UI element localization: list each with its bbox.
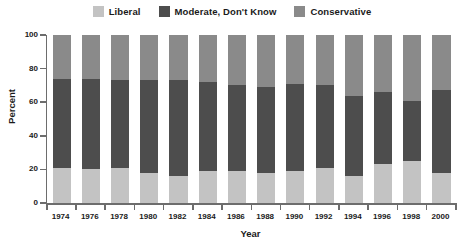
plot-area <box>46 35 456 203</box>
bar-slot-1982 <box>164 35 193 203</box>
bar-slot-1996 <box>368 35 397 203</box>
x-tick-label-1978: 1978 <box>104 212 133 221</box>
bar-segment-moderate-1984 <box>199 82 217 171</box>
bar-segment-liberal-1980 <box>140 173 158 203</box>
bar-segment-moderate-1986 <box>228 85 246 171</box>
x-tick-8 <box>280 204 282 210</box>
legend-label: Conservative <box>310 6 371 17</box>
stacked-bar-1994[interactable] <box>345 35 363 203</box>
bar-segment-moderate-1974 <box>53 79 71 168</box>
x-tick-1 <box>75 204 77 210</box>
x-tick-5 <box>192 204 194 210</box>
bar-slot-2000 <box>427 35 456 203</box>
y-tick-label-wrap: 80 <box>0 65 38 73</box>
x-tick-label-1984: 1984 <box>192 212 221 221</box>
stacked-bar-1982[interactable] <box>169 35 187 203</box>
x-tick-label-1974: 1974 <box>46 212 75 221</box>
x-tick-label-1992: 1992 <box>309 212 338 221</box>
x-axis-labels: 1974197619781980198219841986198819901992… <box>46 212 455 221</box>
x-tick-label-1976: 1976 <box>75 212 104 221</box>
y-tick-label-wrap: 20 <box>0 165 38 173</box>
y-tick-label-wrap: 0 <box>0 199 38 207</box>
bar-segment-liberal-1988 <box>257 173 275 203</box>
bar-segment-liberal-1996 <box>374 164 392 203</box>
legend-item-moderate: Moderate, Don't Know <box>159 6 277 17</box>
legend-swatch-moderate <box>159 6 170 17</box>
y-tick-label-0: 0 <box>12 199 38 207</box>
x-tick-0 <box>46 204 48 210</box>
y-tick-label-40: 40 <box>12 132 38 140</box>
y-tick-label-wrap: 60 <box>0 98 38 106</box>
bar-segment-moderate-1994 <box>345 96 363 177</box>
bar-segment-conservative-1986 <box>228 35 246 85</box>
chart-legend: LiberalModerate, Don't KnowConservative <box>0 6 464 17</box>
x-tick-9 <box>309 204 311 210</box>
stacked-bar-1990[interactable] <box>286 35 304 203</box>
bar-slot-1974 <box>47 35 76 203</box>
x-tick-label-1994: 1994 <box>338 212 367 221</box>
legend-label: Moderate, Don't Know <box>175 6 277 17</box>
stacked-bar-2000[interactable] <box>432 35 450 203</box>
bar-segment-moderate-2000 <box>432 90 450 172</box>
bar-segment-moderate-1976 <box>82 79 100 170</box>
bar-slot-1978 <box>105 35 134 203</box>
bar-segment-liberal-1986 <box>228 171 246 203</box>
x-axis-ticks <box>46 204 455 210</box>
stacked-bar-1988[interactable] <box>257 35 275 203</box>
y-tick-label-20: 20 <box>12 165 38 173</box>
x-tick-14 <box>455 204 457 210</box>
stacked-bar-1974[interactable] <box>53 35 71 203</box>
bar-segment-liberal-1998 <box>403 161 421 203</box>
x-tick-3 <box>134 204 136 210</box>
bar-segment-conservative-1982 <box>169 35 187 80</box>
x-tick-label-1988: 1988 <box>251 212 280 221</box>
bar-slot-1988 <box>252 35 281 203</box>
bar-segment-conservative-1992 <box>316 35 334 85</box>
bar-segment-moderate-1998 <box>403 101 421 161</box>
bar-slot-1990 <box>281 35 310 203</box>
bar-segment-moderate-1996 <box>374 92 392 164</box>
stacked-bar-1978[interactable] <box>111 35 129 203</box>
bar-slot-1992 <box>310 35 339 203</box>
stacked-bar-1986[interactable] <box>228 35 246 203</box>
bar-segment-liberal-1974 <box>53 168 71 203</box>
x-tick-label-1998: 1998 <box>397 212 426 221</box>
stacked-bar-1984[interactable] <box>199 35 217 203</box>
bar-slot-1998 <box>398 35 427 203</box>
bar-segment-liberal-2000 <box>432 173 450 203</box>
bar-segment-moderate-1978 <box>111 80 129 167</box>
bar-segment-liberal-1978 <box>111 168 129 203</box>
bar-segment-moderate-1980 <box>140 80 158 172</box>
legend-label: Liberal <box>109 6 141 17</box>
x-tick-6 <box>221 204 223 210</box>
stacked-bar-1998[interactable] <box>403 35 421 203</box>
bar-segment-conservative-1984 <box>199 35 217 82</box>
bar-segment-liberal-1982 <box>169 176 187 203</box>
bar-segment-conservative-1978 <box>111 35 129 80</box>
y-tick-label-wrap: 100 <box>0 31 38 39</box>
bar-segment-conservative-1998 <box>403 35 421 101</box>
bar-segment-liberal-1990 <box>286 171 304 203</box>
bar-segment-liberal-1976 <box>82 169 100 203</box>
y-tick-label-wrap: 40 <box>0 132 38 140</box>
legend-swatch-liberal <box>93 6 104 17</box>
legend-item-conservative: Conservative <box>294 6 371 17</box>
stacked-bar-1996[interactable] <box>374 35 392 203</box>
bar-segment-conservative-1996 <box>374 35 392 92</box>
x-tick-label-1980: 1980 <box>134 212 163 221</box>
x-tick-11 <box>367 204 369 210</box>
bar-slot-1984 <box>193 35 222 203</box>
x-axis-title: Year <box>46 228 455 239</box>
x-tick-10 <box>338 204 340 210</box>
stacked-bar-1992[interactable] <box>316 35 334 203</box>
x-tick-2 <box>104 204 106 210</box>
x-tick-label-1990: 1990 <box>280 212 309 221</box>
bar-segment-conservative-1976 <box>82 35 100 79</box>
bar-slot-1994 <box>339 35 368 203</box>
stacked-bar-1976[interactable] <box>82 35 100 203</box>
bar-segment-moderate-1982 <box>169 80 187 176</box>
x-tick-label-1996: 1996 <box>367 212 396 221</box>
stacked-bar-1980[interactable] <box>140 35 158 203</box>
y-tick-label-100: 100 <box>12 31 38 39</box>
x-tick-13 <box>426 204 428 210</box>
